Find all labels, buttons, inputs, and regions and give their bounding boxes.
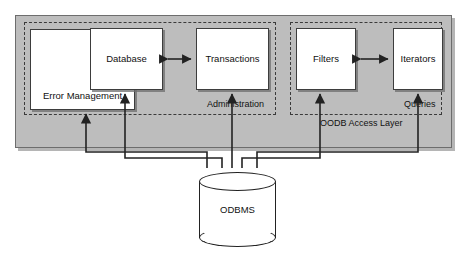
group-queries-label: Queries [404, 99, 436, 109]
architecture-diagram: Error Management Database Transactions F… [0, 0, 465, 262]
component-database[interactable]: Database [90, 28, 163, 90]
datastore-odbms[interactable]: ODBMS [199, 172, 276, 246]
component-transactions[interactable]: Transactions [196, 28, 269, 90]
component-iterators-label: Iterators [401, 54, 436, 64]
component-filters-label: Filters [313, 54, 339, 64]
component-error-management-label: Error Management [43, 91, 122, 101]
component-iterators[interactable]: Iterators [393, 28, 443, 90]
group-administration-label: Administration [207, 99, 264, 109]
component-filters[interactable]: Filters [296, 28, 356, 90]
datastore-odbms-label: ODBMS [199, 172, 276, 246]
component-transactions-label: Transactions [205, 54, 259, 64]
component-database-label: Database [106, 54, 147, 64]
oodb-access-layer-label: OODB Access Layer [320, 118, 403, 128]
